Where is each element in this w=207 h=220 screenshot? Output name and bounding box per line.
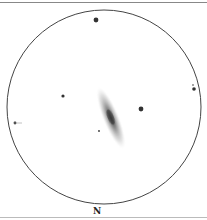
bottom-border [0,217,207,218]
star-far-right-icon [192,87,196,91]
star-near-galaxy-icon [98,130,100,132]
star-left-icon [61,94,64,97]
eyepiece-sketch [0,0,207,220]
north-label: N [93,206,101,216]
star-right-icon [139,107,144,112]
star-top-icon [94,18,99,23]
star-far-right-faint-icon [192,84,194,86]
galaxy [91,84,131,151]
